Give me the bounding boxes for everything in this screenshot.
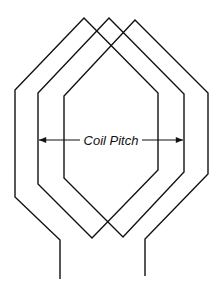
coil-winding xyxy=(15,18,208,279)
coil-diagram: Coil Pitch xyxy=(0,0,220,296)
coil-pitch-label: Coil Pitch xyxy=(84,133,139,148)
